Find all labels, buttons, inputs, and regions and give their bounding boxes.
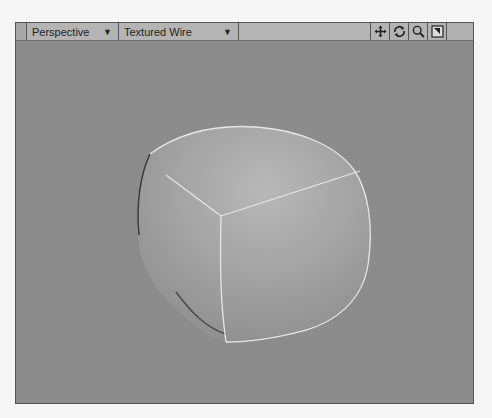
render-mode-label: Textured Wire — [124, 26, 192, 38]
viewport-panel[interactable]: Perspective ▼ Textured Wire ▼ — [15, 22, 474, 404]
viewport-handle[interactable] — [16, 23, 27, 40]
render-mode-dropdown[interactable]: Textured Wire ▼ — [119, 23, 239, 40]
toolbar-end — [446, 23, 473, 40]
rotate-view-button[interactable] — [389, 23, 408, 40]
rounded-cube-mesh[interactable] — [137, 127, 370, 342]
view-type-dropdown[interactable]: Perspective ▼ — [27, 23, 119, 40]
viewport-scene[interactable] — [16, 40, 473, 404]
view-type-label: Perspective — [32, 26, 89, 38]
zoom-view-button[interactable] — [408, 23, 427, 40]
toolbar-spacer — [239, 23, 370, 40]
move-view-button[interactable] — [370, 23, 389, 40]
viewport-toolbar: Perspective ▼ Textured Wire ▼ — [16, 23, 473, 41]
chevron-down-icon: ▼ — [223, 27, 232, 37]
zoom-icon — [412, 25, 425, 38]
move-icon — [374, 25, 387, 38]
maximize-icon — [431, 25, 444, 38]
maximize-view-button[interactable] — [427, 23, 446, 40]
rotate-icon — [393, 25, 406, 38]
chevron-down-icon: ▼ — [103, 27, 112, 37]
